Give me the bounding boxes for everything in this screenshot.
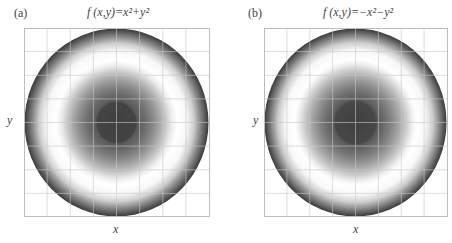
panel-label-b: (b): [248, 6, 262, 21]
contour-plot-a: [24, 28, 210, 217]
y-axis-label-a: y: [7, 113, 12, 128]
x-axis-label-b: x: [353, 222, 358, 237]
contour-svg-b: [264, 28, 448, 217]
x-axis-label-a: x: [113, 222, 118, 237]
panel-title-a: f (x,y)=x²+y²: [87, 5, 149, 20]
y-axis-label-b: y: [253, 113, 258, 128]
panel-b: (b) f (x,y)=−x²−y² y x: [226, 0, 452, 243]
contour-svg-a: [24, 28, 210, 217]
contour-plot-b: [264, 28, 448, 217]
panel-label-a: (a): [14, 6, 27, 21]
panel-a: (a) f (x,y)=x²+y² y x: [0, 0, 226, 243]
panel-title-b: f (x,y)=−x²−y²: [323, 5, 393, 20]
